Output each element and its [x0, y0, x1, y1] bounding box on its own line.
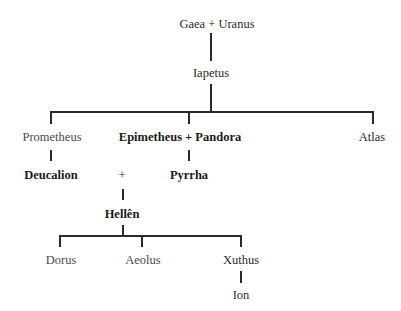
node-prometheus: Prometheus [22, 131, 81, 144]
connector-prometheus-deucalion [50, 150, 52, 161]
node-deucalion: Deucalion [24, 169, 77, 182]
node-hellen: Hellên [105, 208, 140, 221]
connector-dorus-drop [59, 235, 61, 247]
connector-union-hellen [122, 189, 124, 200]
family-tree-diagram: Gaea + Uranus Iapetus Prometheus Epimeth… [0, 0, 401, 311]
node-dorus: Dorus [46, 254, 77, 267]
node-xuthus: Xuthus [223, 254, 259, 267]
node-aeolus: Aeolus [125, 254, 160, 267]
node-iapetus: Iapetus [193, 67, 229, 80]
connector-iapetus-down [210, 84, 212, 111]
connector-hellen-down [122, 225, 124, 235]
node-pyrrha: Pyrrha [170, 169, 208, 182]
connector-generation-2-bar [50, 111, 374, 113]
connector-xuthus-ion [240, 271, 242, 283]
node-ion: Ion [233, 289, 250, 302]
node-epimetheus-pandora: Epimetheus + Pandora [119, 131, 241, 144]
node-atlas: Atlas [359, 131, 385, 144]
connector-prometheus-drop [50, 111, 52, 124]
connector-aeolus-drop [141, 235, 143, 247]
connector-epimetheus-pyrrha [188, 150, 190, 161]
connector-atlas-drop [372, 111, 374, 124]
node-gaea-uranus: Gaea + Uranus [179, 18, 254, 31]
connector-epimetheus-drop [188, 111, 190, 124]
connector-generation-4-bar [59, 235, 242, 237]
connector-gaea-iapetus [210, 33, 212, 61]
connector-xuthus-drop [240, 235, 242, 247]
union-plus-sign: + [118, 169, 125, 182]
